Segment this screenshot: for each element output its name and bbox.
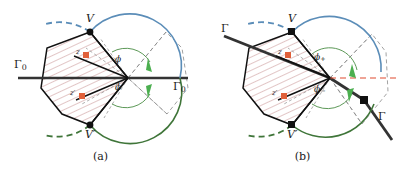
panel-b-drawing [202,0,403,175]
vertex-V-dot [87,29,94,36]
phi-subscript-upper: + [320,55,325,63]
inner-angle-arc-lower [312,94,352,109]
figure-container: V V′ Γ0 Γ0 ϕ ϕ z z′ (a) [0,0,403,175]
point-z-marker [83,52,89,58]
panel-a-label-vertex-bottom: V′ [85,128,95,141]
vertex-Vprime-dot [288,121,295,128]
panel-b-label-vertex-top: V [288,12,296,25]
corner-vertex-dot [360,96,368,104]
gamma-glyph-left: Γ [14,58,22,71]
panel-b-label-boundary-lower-right: Γ [378,110,386,123]
point-z-prime-marker [79,93,85,99]
panel-b-label-point-z: z [278,48,282,56]
panel-b-label-angle-lower: ϕ− [314,84,326,95]
panel-b-label-boundary-upper-left: Γ [221,22,229,35]
panel-a-label-vertex-top: V [86,12,94,25]
panel-a-label-boundary-right: Γ0 [173,80,186,94]
point-z-prime-marker [281,93,287,99]
panel-a-label-boundary-left: Γ0 [14,58,27,72]
panel-a-caption: (a) [0,150,201,163]
rotation-arrow-upper [349,64,356,78]
panel-b-label-angle-upper: ϕ+ [314,52,326,63]
panel-a-label-angle-lower: ϕ [115,82,121,92]
panel-a-label-angle-upper: ϕ [115,54,121,64]
panel-a: V V′ Γ0 Γ0 ϕ ϕ z z′ (a) [0,0,201,175]
panel-a-drawing [0,0,201,175]
phi-subscript-lower: − [320,87,325,95]
boundary-segment-lower-right [330,78,364,100]
panel-b-label-vertex-bottom: V′ [287,128,297,141]
panel-a-label-point-z: z [76,48,80,56]
point-z-marker [285,52,291,58]
panel-b-label-point-z-prime: z′ [272,89,277,97]
gamma-subscript-right: 0 [181,85,186,94]
panel-a-label-point-z-prime: z′ [70,89,75,97]
vertex-V-dot [288,28,295,35]
panel-b-caption: (b) [202,150,403,163]
inner-angle-arc-lower [112,94,150,108]
green-arc-dashed [44,125,90,137]
panel-b: V V′ Γ Γ ϕ+ ϕ− z z′ (b) [202,0,403,175]
blue-arc-dashed [46,22,90,32]
gamma-subscript-left: 0 [22,63,27,72]
guide-polygon-dashed [128,32,188,114]
green-arc-dashed [246,125,292,137]
gamma-glyph-right: Γ [173,80,181,93]
blue-arc-dashed [248,22,292,32]
